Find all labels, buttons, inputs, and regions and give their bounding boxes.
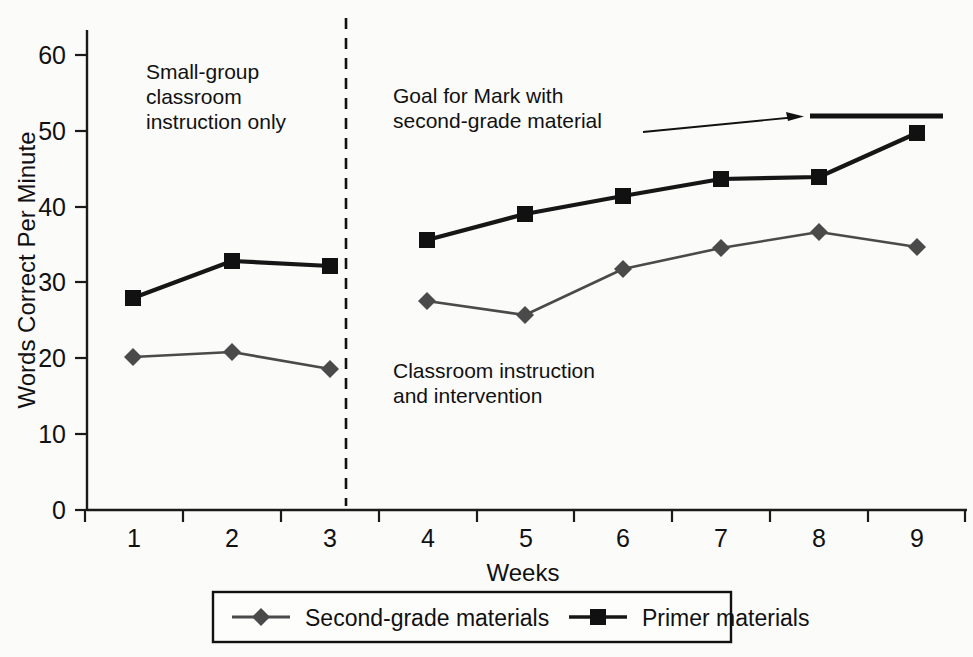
data-point-second-grade-w3 [321,360,339,378]
x-tick-label-1: 1 [127,524,141,552]
data-point-second-grade-w9 [908,238,926,256]
goal-arrow-head [786,112,804,121]
data-point-second-grade-w2 [223,343,241,361]
x-tick-label-7: 7 [714,524,728,552]
data-point-primer-w7 [713,171,729,187]
second-grade-line-phase2 [427,232,917,315]
x-tick-labels: 1 2 3 4 5 6 7 8 9 [127,524,924,552]
phase-2-annotation: Classroom instruction and intervention [393,359,595,407]
data-point-primer-w1 [125,290,141,306]
series-primer-materials [125,125,925,306]
y-tick-label-20: 20 [38,344,66,372]
y-tick-labels: 60 50 40 30 20 10 0 [38,41,66,524]
data-point-primer-w3 [322,258,338,274]
data-point-primer-w4 [419,232,435,248]
goal-annotation-line-2: second-grade material [393,109,602,132]
phase-2-annotation-line-2: and intervention [393,384,542,407]
data-point-second-grade-w1 [124,348,142,366]
data-point-second-grade-w8 [810,223,828,241]
y-tick-label-30: 30 [38,268,66,296]
goal-annotation: Goal for Mark with second-grade material [393,84,602,132]
series-second-grade-materials [124,223,926,378]
chart-canvas: 60 50 40 30 20 10 0 Words Correct Per Mi… [0,0,973,657]
data-point-second-grade-w7 [712,239,730,257]
y-tick-marks [75,55,87,510]
x-tick-label-3: 3 [323,524,337,552]
goal-annotation-line-1: Goal for Mark with [393,84,563,107]
x-tick-label-4: 4 [421,524,435,552]
phase-2-annotation-line-1: Classroom instruction [393,359,595,382]
primer-line-phase2 [427,133,917,240]
data-point-primer-w2 [224,253,240,269]
x-tick-label-9: 9 [910,524,924,552]
legend-label-second-grade-materials: Second-grade materials [305,605,549,631]
phase-1-annotation-line-1: Small-group [146,60,259,83]
phase-1-annotation: Small-group classroom instruction only [146,60,287,133]
progress-monitoring-chart: 60 50 40 30 20 10 0 Words Correct Per Mi… [0,0,973,657]
data-point-second-grade-w6 [614,260,632,278]
x-axis-title: Weeks [487,559,560,586]
y-tick-label-50: 50 [38,117,66,145]
phase-1-annotation-line-2: classroom [146,85,242,108]
y-tick-label-10: 10 [38,420,66,448]
y-axis-title: Words Correct Per Minute [13,132,40,409]
data-point-primer-w8 [811,169,827,185]
y-tick-label-40: 40 [38,193,66,221]
goal-line-group [643,112,943,132]
y-tick-label-60: 60 [38,41,66,69]
legend-label-primer-materials: Primer materials [642,605,809,631]
data-point-primer-w5 [517,206,533,222]
x-tick-label-8: 8 [812,524,826,552]
x-tick-marks [85,510,965,522]
data-point-second-grade-w4 [418,292,436,310]
x-tick-label-5: 5 [519,524,533,552]
data-point-primer-w6 [615,188,631,204]
x-tick-label-6: 6 [616,524,630,552]
chart-legend: Second-grade materials Primer materials [213,592,809,642]
primer-markers [125,125,925,306]
data-point-second-grade-w5 [516,306,534,324]
goal-arrow-line [643,117,797,132]
x-tick-label-2: 2 [225,524,239,552]
data-point-primer-w9 [909,125,925,141]
phase-1-annotation-line-3: instruction only [146,110,287,133]
y-tick-label-0: 0 [52,496,66,524]
square-marker [590,609,606,625]
